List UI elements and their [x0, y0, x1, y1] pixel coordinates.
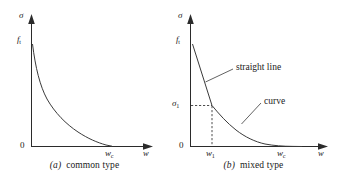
figure-container: σ ft 0 wc w (a) common type	[0, 0, 338, 183]
annotation-curve: curve	[264, 97, 285, 107]
panel-a-common-type: σ ft 0 wc w (a) common type	[0, 0, 169, 183]
panel-b-mixed-type: σ ft σ1 0 w1 wc w straight line curve (b…	[169, 0, 338, 183]
x-axis-label-a: w	[143, 149, 149, 158]
panel-b-caption-text: mixed type	[240, 160, 283, 170]
y-tick-label-ft-b: ft	[176, 35, 180, 44]
y-axis-arrowhead-a	[28, 14, 35, 24]
annotation-straight-line: straight line	[236, 63, 281, 73]
curve-leader-b	[242, 103, 262, 124]
panel-b-plot	[169, 0, 338, 183]
y-axis-label-a: σ	[19, 11, 23, 20]
y-axis-arrowhead-b	[187, 14, 194, 24]
decay-curve-b	[212, 106, 302, 147]
panel-a-caption: (a) common type	[0, 160, 169, 170]
origin-label-a: 0	[20, 141, 25, 150]
x-axis-label-b: w	[318, 149, 324, 158]
panel-a-caption-text: common type	[66, 160, 119, 170]
panel-b-caption: (b) mixed type	[169, 160, 338, 170]
y-axis-label-b: σ	[178, 11, 182, 20]
panel-a-caption-number: (a)	[50, 160, 61, 170]
straight-line-segment-b	[193, 44, 213, 106]
panel-b-caption-number: (b)	[224, 160, 235, 170]
origin-label-b: 0	[179, 141, 184, 150]
softening-curve-a	[33, 44, 113, 146]
x-tick-label-w1-b: w1	[206, 149, 215, 158]
x-tick-label-wc-b: wc	[277, 149, 286, 158]
y-tick-label-ft-a: ft	[17, 35, 21, 44]
x-tick-label-wc-a: wc	[105, 149, 114, 158]
y-tick-label-sigma1-b: σ1	[172, 99, 180, 108]
straight-line-leader-b	[206, 69, 234, 82]
